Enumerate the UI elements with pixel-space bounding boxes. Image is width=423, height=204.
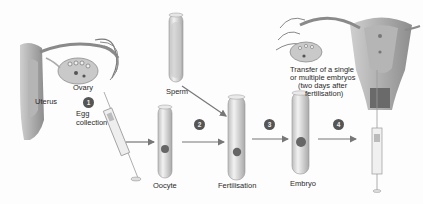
sperm-label: Sperm: [166, 88, 188, 97]
diagram-artwork: [0, 0, 423, 204]
arrow-sperm-to-fertilisation: [182, 86, 226, 116]
oocyte-tube-illustration: [158, 105, 172, 178]
embryo-label: Embryo: [290, 180, 316, 189]
ovary-label: Ovary: [73, 84, 93, 93]
fertilisation-tube-illustration: [228, 95, 245, 180]
embryo-tube-illustration: [292, 91, 309, 174]
fertilisation-label: Fertilisation: [218, 182, 256, 191]
sperm-tube-illustration: [169, 13, 183, 82]
step-badge-4: 4: [333, 119, 344, 130]
uterus-label: Uterus: [35, 98, 57, 107]
ivf-diagram: Uterus Ovary Egg collection Sperm Oocyte…: [0, 0, 423, 204]
step-badge-2: 2: [194, 119, 205, 130]
egg-collection-label-line2: collection: [76, 119, 107, 128]
oocyte-label: Oocyte: [153, 182, 177, 191]
step-badge-1: 1: [83, 97, 94, 108]
transfer-label-line4: fertilisation): [305, 90, 343, 99]
step-badge-3: 3: [264, 119, 275, 130]
collection-syringe-illustration: [103, 92, 141, 181]
